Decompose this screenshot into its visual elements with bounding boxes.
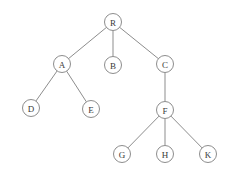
tree-node-label-f: F <box>162 106 167 116</box>
tree-edge-r-c <box>120 27 159 58</box>
tree-node-f[interactable]: F <box>157 102 174 119</box>
tree-node-h[interactable]: H <box>157 146 174 163</box>
tree-node-label-h: H <box>162 150 169 160</box>
tree-node-label-k: K <box>205 150 212 160</box>
tree-node-g[interactable]: G <box>114 146 131 163</box>
tree-node-r[interactable]: R <box>105 14 122 31</box>
tree-edge-a-e <box>67 71 87 102</box>
tree-node-label-d: D <box>28 104 35 114</box>
tree-node-b[interactable]: B <box>105 57 122 74</box>
tree-node-label-g: G <box>119 150 126 160</box>
tree-node-label-a: A <box>59 60 66 70</box>
tree-edge-f-k <box>171 116 202 148</box>
tree-edge-r-a <box>69 27 107 58</box>
tree-node-k[interactable]: K <box>200 146 217 163</box>
tree-node-e[interactable]: E <box>83 101 100 118</box>
tree-node-label-b: B <box>110 61 116 71</box>
tree-node-label-e: E <box>88 105 94 115</box>
tree-edge-a-d <box>36 71 57 101</box>
tree-node-label-r: R <box>110 18 116 28</box>
tree-node-a[interactable]: A <box>54 56 71 73</box>
tree-diagram: RABCDEFGHK <box>0 0 231 176</box>
tree-edge-f-g <box>128 116 159 148</box>
tree-node-c[interactable]: C <box>157 56 174 73</box>
tree-node-d[interactable]: D <box>23 100 40 117</box>
tree-diagram-canvas: RABCDEFGHK <box>0 0 231 176</box>
nodes-layer: RABCDEFGHK <box>23 14 217 163</box>
edges-layer <box>36 27 202 148</box>
tree-node-label-c: C <box>162 60 168 70</box>
